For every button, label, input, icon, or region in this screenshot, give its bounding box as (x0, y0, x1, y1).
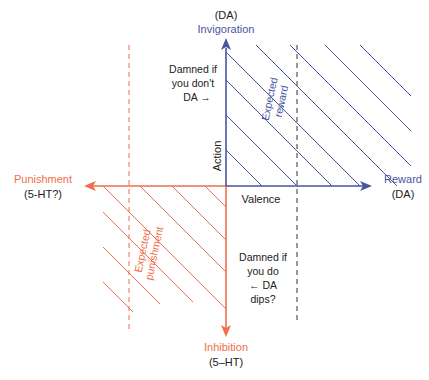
damned-do-line3: ← DA (230, 278, 296, 292)
expected-punishment-hatching (103, 186, 226, 312)
inhibition-label: Inhibition (186, 340, 266, 354)
punishment-label: Punishment (8, 172, 78, 186)
punishment-sublabel: (5-HT?) (8, 187, 78, 201)
damned-dont-line1: Damned if (160, 62, 226, 76)
expected-reward-hatching (226, 45, 411, 186)
invigoration-sublabel: (DA) (196, 8, 256, 22)
damned-do-line2: you do (230, 264, 296, 278)
reward-sublabel: (DA) (378, 187, 428, 201)
invigoration-label: Invigoration (186, 22, 266, 36)
action-axis-name: Action (210, 131, 224, 181)
damned-do-line4: dips? (230, 292, 296, 306)
inhibition-sublabel: (5–HT) (196, 355, 256, 369)
reward-label: Reward (378, 172, 428, 186)
damned-if-you-do-note: Damned if you do ← DA dips? (230, 250, 296, 306)
damned-dont-line2: you don't (160, 76, 226, 90)
damned-dont-line3: DA → (160, 90, 226, 104)
valence-axis-name: Valence (236, 192, 286, 206)
damned-do-line1: Damned if (230, 250, 296, 264)
damned-if-you-dont-note: Damned if you don't DA → (160, 62, 226, 104)
